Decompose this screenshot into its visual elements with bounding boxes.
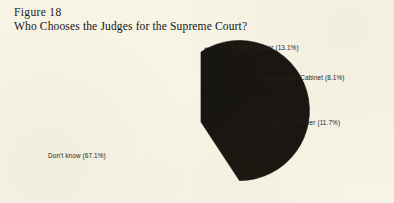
- figure-title: Who Chooses the Judges for the Supreme C…: [14, 19, 247, 34]
- pie-label-dont-know: Don't know (67.1%): [48, 152, 106, 159]
- figure-title-block: Figure 18 Who Chooses the Judges for the…: [14, 5, 247, 34]
- pie-label-prime-minister: Prime Minister (13.1%): [231, 44, 299, 51]
- pie-label-government-cabinet: Government/Cabinet (8.1%): [262, 74, 345, 81]
- pie-label-incorrect-answer: Incorrect Answer (11.7%): [266, 119, 340, 126]
- figure-number: Figure 18: [14, 5, 247, 19]
- pie-slice-dont-know[interactable]: [201, 41, 309, 181]
